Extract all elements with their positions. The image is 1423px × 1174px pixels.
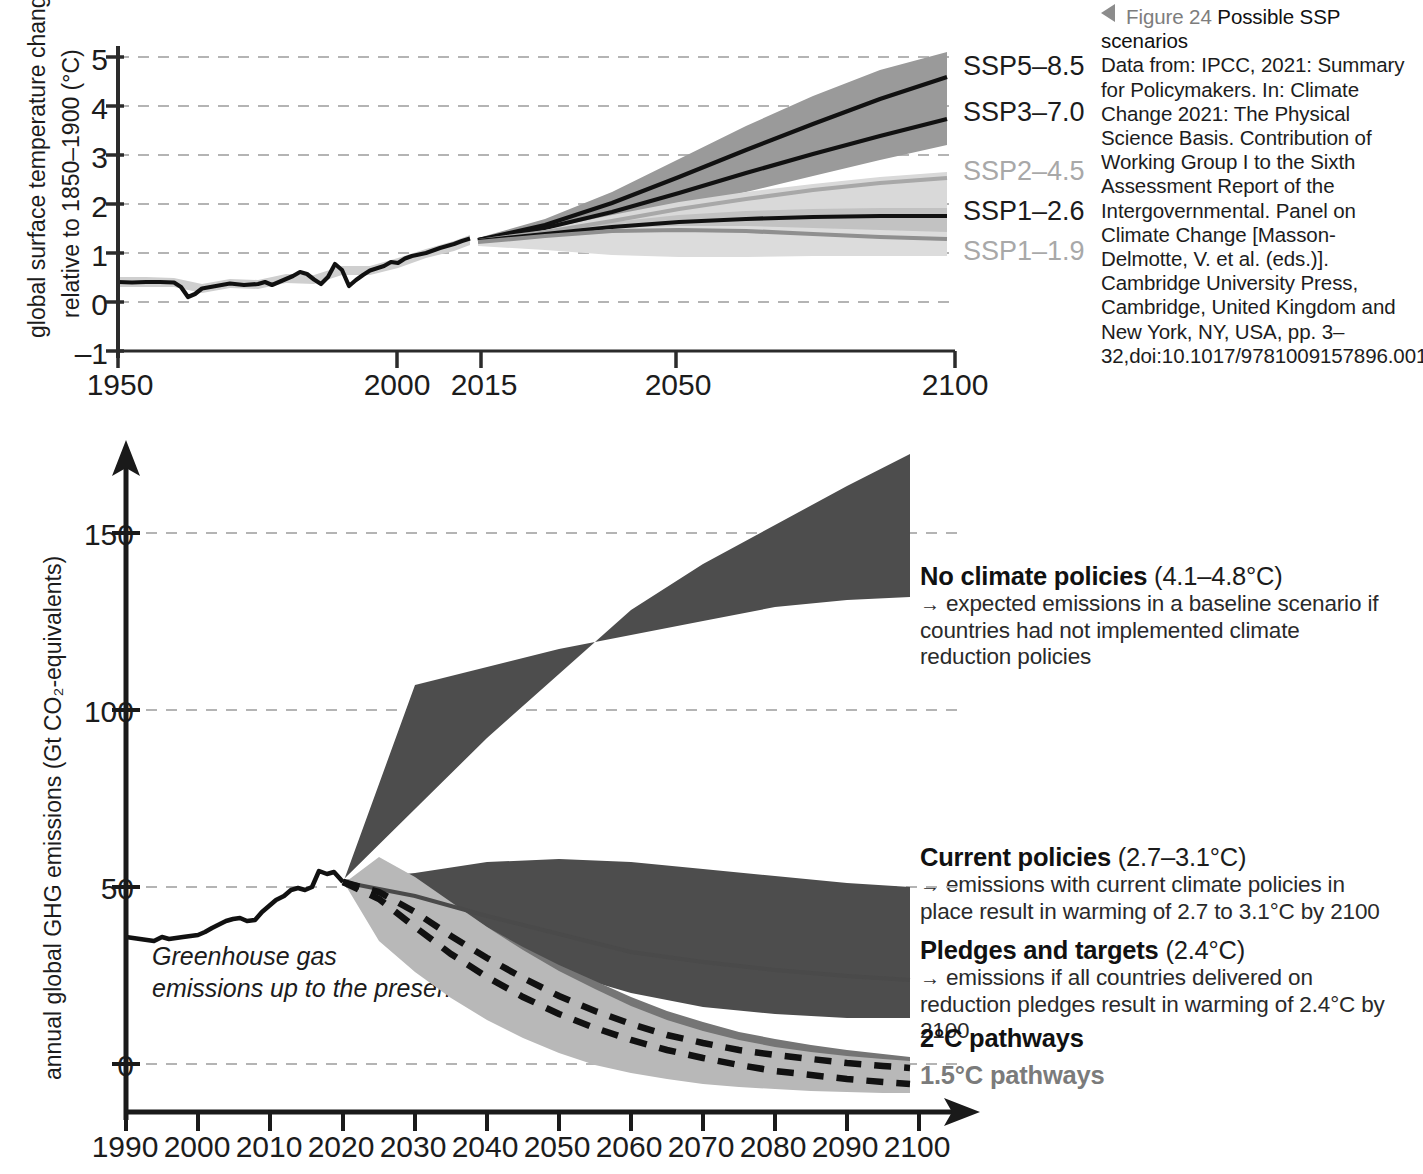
top-x-ticks [118, 351, 955, 368]
figure-caption: Figure 24 Possible SSP scenarios Data fr… [1101, 4, 1419, 368]
no-climate-policies-band [343, 454, 910, 883]
bottom-x-ticks [126, 1112, 919, 1131]
left-triangle-icon [1101, 4, 1115, 22]
top-y-ticks [106, 57, 124, 351]
historical-temperature-line [118, 239, 470, 298]
caption-source: Data from: IPCC, 2021: Summary for Polic… [1101, 53, 1419, 368]
top-chart-plot [0, 0, 1095, 420]
bottom-chart-plot [0, 420, 1423, 1174]
historical-emissions-line [126, 871, 343, 941]
ghg-emissions-chart: annual global GHG emissions (Gt CO₂-equi… [0, 420, 1423, 1174]
caption-heading: Figure 24 Possible SSP scenarios [1101, 4, 1419, 53]
caption-figure-number: Figure 24 [1126, 5, 1212, 28]
ssp-temperature-chart: global surface temperature change relati… [0, 0, 1095, 420]
